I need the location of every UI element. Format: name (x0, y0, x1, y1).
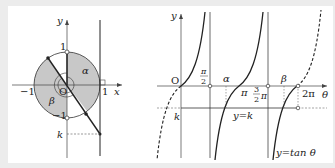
origin-right-label: O (171, 75, 179, 86)
y-equals-k-label: y=k (232, 110, 253, 121)
tan-branch-3-dashed (297, 10, 321, 86)
half-pi-numerator: π (200, 67, 207, 76)
half-pi-denominator: 2 (201, 77, 206, 86)
alpha-point-label: α (223, 73, 230, 84)
x-tick-neg1: −1 (20, 86, 35, 97)
unit-circle-figure: y x O 1 −1 1 −1 α β k (12, 15, 122, 158)
origin-label: O (59, 86, 67, 97)
three-half-numerator: 3 (254, 85, 259, 94)
tan-graph-figure: y θ O π 2 α π 3 2 π β 2π k y=k y=tan θ (157, 10, 328, 160)
three-half-pi-symbol: π (260, 91, 268, 101)
y-tick-1: 1 (60, 41, 66, 52)
open-point-two-pi (296, 84, 300, 88)
tan-branch-1-dashed (157, 86, 181, 160)
alpha-label: α (82, 65, 89, 76)
y-axis-right-label: y (170, 10, 177, 21)
right-angle-mark (100, 80, 105, 85)
beta-label: β (48, 95, 55, 106)
three-half-denominator: 2 (254, 95, 259, 104)
x-tick-1: 1 (102, 86, 108, 97)
theta-axis-label: θ (322, 89, 328, 100)
pi-tick-label: π (240, 87, 248, 98)
y-axis-label: y (56, 15, 63, 26)
y-tick-neg1: −1 (52, 110, 67, 121)
y-axis-arrow (65, 20, 69, 25)
y-axis-right-arrow (179, 14, 183, 19)
diagram-svg: y x O 1 −1 1 −1 α β k (0, 0, 335, 168)
y-equals-tan-label: y=tan θ (275, 147, 316, 158)
open-point-three-half-pi (266, 84, 270, 88)
x-axis-label: x (114, 86, 120, 97)
point-lower (84, 112, 88, 116)
open-point-two-pi-k (296, 106, 300, 110)
two-pi-tick-label: 2π (302, 88, 315, 99)
k-label: k (57, 129, 63, 140)
theta-axis-arrow (322, 84, 327, 88)
point-upper (46, 56, 50, 60)
open-point-half-pi (208, 84, 212, 88)
beta-point-label: β (280, 73, 287, 84)
k-right-label: k (174, 111, 180, 122)
